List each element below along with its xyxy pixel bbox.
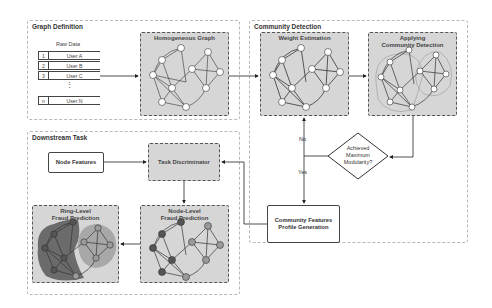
decision-line: Modularity? [340,159,376,166]
homogeneous-graph-drawing [140,40,229,116]
community-detection-graph-drawing [368,44,457,116]
weight-estimation-graph-drawing [260,40,349,116]
yes-label: Yes [298,169,307,175]
node-level-graph-drawing [140,218,229,283]
decision-line: Maximum [340,152,376,159]
no-label: No [299,136,306,142]
decision-label: Achieved Maximum Modularity? [340,145,376,166]
decision-line: Achieved [340,145,376,152]
ring-level-graph-drawing [32,218,119,283]
